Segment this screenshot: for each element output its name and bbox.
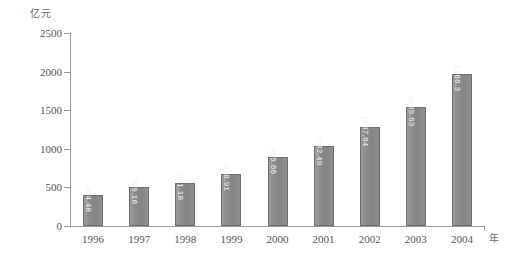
y-axis-unit-label: 亿元	[30, 8, 51, 20]
x-axis-tick-label: 2000	[255, 233, 301, 246]
x-axis-end-tick	[484, 226, 485, 231]
x-axis-tick-label: 1998	[162, 233, 208, 246]
bar-value-label: 678.91	[222, 164, 231, 190]
x-axis-tick-label: 2004	[439, 233, 485, 246]
bar[interactable]: 1539.63	[406, 107, 426, 226]
y-axis-tick-label-wrap: 0	[0, 221, 62, 232]
y-axis-tick-label: 500	[2, 182, 62, 193]
x-axis-tick-label: 1999	[208, 233, 254, 246]
x-axis-tick-label: 2002	[347, 233, 393, 246]
bar-value-label: 509.16	[130, 178, 139, 204]
bar-value-label: 1539.63	[407, 96, 416, 127]
bars-layer: 404.48509.16551.18678.91895.661042.49128…	[70, 33, 485, 226]
bar[interactable]: 1287.64	[360, 127, 380, 226]
y-axis-tick-label-wrap: 1000	[0, 144, 62, 155]
bar[interactable]: 895.66	[268, 157, 288, 226]
bar-chart: 亿元 25002000150010005000 404.48509.16551.…	[0, 0, 511, 271]
x-axis-tick-label: 2003	[393, 233, 439, 246]
x-axis-tick-label: 2001	[301, 233, 347, 246]
bar-value-label: 404.48	[84, 186, 93, 212]
y-axis-tick-label: 1000	[2, 144, 62, 155]
bar[interactable]: 1042.49	[314, 146, 334, 226]
bar[interactable]: 678.91	[221, 174, 241, 226]
bar[interactable]: 551.18	[175, 183, 195, 226]
bar[interactable]: 509.16	[129, 187, 149, 226]
y-axis-tick-label: 0	[2, 221, 62, 232]
bar-value-label: 1042.49	[315, 134, 324, 165]
y-axis-tick-label: 1500	[2, 105, 62, 116]
y-axis-tick-label-wrap: 2500	[0, 28, 62, 39]
y-axis-tick	[64, 226, 71, 227]
y-axis-tick-label: 2500	[2, 28, 62, 39]
x-axis-tick-label: 1997	[116, 233, 162, 246]
x-axis-line	[70, 226, 485, 227]
bar-value-label: 895.66	[269, 148, 278, 174]
bar-value-label: 1287.64	[361, 115, 370, 146]
bar[interactable]: 1966.3	[452, 74, 472, 226]
x-axis-unit-label: 年	[489, 233, 499, 245]
x-axis-labels: 199619971998199920002001200220032004	[70, 233, 485, 247]
y-axis-tick-label-wrap: 500	[0, 182, 62, 193]
x-axis-tick-label: 1996	[70, 233, 116, 246]
bar-value-label: 1966.3	[453, 65, 462, 91]
y-axis-tick-label-wrap: 2000	[0, 67, 62, 78]
bar[interactable]: 404.48	[83, 195, 103, 226]
bar-value-label: 551.18	[176, 174, 185, 200]
y-axis-tick-label-wrap: 1500	[0, 105, 62, 116]
y-axis-tick-label: 2000	[2, 67, 62, 78]
